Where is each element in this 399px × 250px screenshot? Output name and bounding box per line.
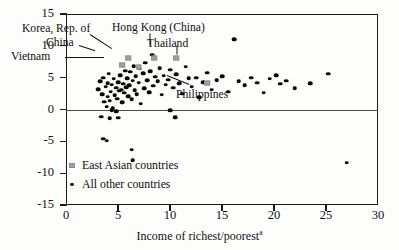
data-point-east-asian [173, 55, 179, 60]
x-axis-tick-label: 5 [98, 209, 138, 222]
data-point-east-asian [152, 55, 158, 60]
annotation-vietnam: Vietnam [11, 51, 50, 63]
annotation-china: China [46, 37, 74, 49]
annotation-hongkong: Hong Kong (China) [112, 22, 205, 34]
y-axis-tick [60, 77, 67, 78]
x-axis-tick-label: 15 [202, 209, 242, 222]
y-axis-tick [60, 204, 67, 205]
x-axis-tick-label: 30 [358, 209, 398, 222]
x-axis-tick-label: 10 [150, 209, 190, 222]
annotation-philippines: Philippines [176, 89, 228, 101]
x-axis-title-superscript: a [259, 228, 262, 237]
y-axis-tick [60, 141, 67, 142]
legend-label-east-asian: East Asian countries [82, 158, 178, 172]
annotation-thailand: Thailand [147, 38, 188, 50]
y-axis-tick-label: -5 [14, 134, 54, 146]
data-point-east-asian [126, 55, 132, 60]
y-axis-tick [60, 13, 67, 14]
annotation-korea: Korea, Rep. of [22, 23, 90, 35]
data-point-east-asian [205, 81, 211, 86]
data-point-east-asian [136, 65, 142, 70]
legend-marker-east-asian [69, 163, 75, 168]
y-axis-tick-label: -10 [14, 166, 54, 178]
y-axis-tick [60, 109, 67, 110]
leader-line-vietnam [65, 57, 104, 58]
data-point-east-asian [119, 62, 125, 67]
y-axis-tick-label: 5 [14, 71, 54, 83]
y-axis-tick-label: 15 [14, 7, 54, 19]
y-axis-tick [60, 173, 67, 174]
x-axis-title-text: Income of richest/poorest [137, 229, 260, 243]
x-axis-tick-label: 20 [254, 209, 294, 222]
x-axis-tick-label: 25 [306, 209, 346, 222]
y-axis-tick-label: 0 [14, 103, 54, 115]
x-axis-title: Income of richest/pooresta [0, 228, 399, 244]
x-axis-tick-label: 0 [46, 209, 86, 222]
legend-label-all-other: All other countries [82, 177, 170, 191]
chart-root: 151050-5-10-15 051015202530 Korea, Rep. … [0, 0, 399, 250]
